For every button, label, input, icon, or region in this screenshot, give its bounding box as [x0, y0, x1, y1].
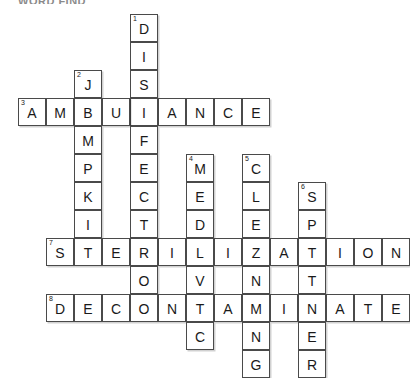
- cell-letter: I: [131, 43, 157, 69]
- crossword-cell[interactable]: 5C: [242, 154, 270, 182]
- cell-letter: A: [327, 295, 353, 321]
- crossword-cell[interactable]: N: [298, 294, 326, 322]
- cell-letter: D: [187, 211, 213, 237]
- crossword-cell[interactable]: T: [130, 210, 158, 238]
- crossword-cell[interactable]: E: [102, 238, 130, 266]
- crossword-cell[interactable]: A: [158, 98, 186, 126]
- cell-letter: A: [159, 99, 185, 125]
- crossword-cell[interactable]: 3A: [18, 98, 46, 126]
- cell-letter: T: [131, 211, 157, 237]
- crossword-cell[interactable]: T: [186, 294, 214, 322]
- cell-letter: E: [299, 323, 325, 349]
- crossword-cell[interactable]: A: [270, 238, 298, 266]
- cell-letter: R: [131, 239, 157, 265]
- crossword-cell[interactable]: E: [242, 210, 270, 238]
- cell-letter: P: [75, 155, 101, 181]
- crossword-cell[interactable]: B: [74, 98, 102, 126]
- cell-letter: N: [383, 239, 409, 265]
- cell-letter: C: [103, 295, 129, 321]
- crossword-cell[interactable]: E: [130, 154, 158, 182]
- crossword-cell[interactable]: I: [158, 238, 186, 266]
- cell-letter: N: [159, 295, 185, 321]
- crossword-cell[interactable]: F: [130, 126, 158, 154]
- cell-letter: F: [131, 127, 157, 153]
- crossword-cell[interactable]: S: [130, 70, 158, 98]
- cell-letter: A: [19, 99, 45, 125]
- crossword-cell[interactable]: E: [186, 182, 214, 210]
- crossword-cell[interactable]: M: [74, 126, 102, 154]
- cell-letter: E: [131, 155, 157, 181]
- crossword-cell[interactable]: R: [130, 238, 158, 266]
- crossword-cell[interactable]: 8D: [46, 294, 74, 322]
- cell-letter: O: [355, 239, 381, 265]
- cell-letter: D: [47, 295, 73, 321]
- crossword-cell[interactable]: M: [46, 98, 74, 126]
- cell-letter: B: [75, 99, 101, 125]
- crossword-cell[interactable]: T: [298, 266, 326, 294]
- cell-letter: J: [75, 71, 101, 97]
- cell-letter: P: [299, 211, 325, 237]
- cell-letter: I: [215, 239, 241, 265]
- crossword-cell[interactable]: O: [130, 294, 158, 322]
- crossword-cell[interactable]: N: [382, 238, 410, 266]
- crossword-cell[interactable]: T: [298, 238, 326, 266]
- crossword-cell[interactable]: U: [102, 98, 130, 126]
- crossword-cell[interactable]: D: [186, 210, 214, 238]
- cell-letter: E: [243, 211, 269, 237]
- crossword-cell[interactable]: C: [186, 322, 214, 350]
- crossword-cell[interactable]: L: [242, 182, 270, 210]
- crossword-cell[interactable]: I: [214, 238, 242, 266]
- crossword-cell[interactable]: 2J: [74, 70, 102, 98]
- crossword-cell[interactable]: E: [74, 294, 102, 322]
- crossword-cell[interactable]: C: [214, 98, 242, 126]
- cell-letter: T: [187, 295, 213, 321]
- crossword-cell[interactable]: A: [326, 294, 354, 322]
- cell-letter: S: [131, 71, 157, 97]
- cell-letter: M: [187, 155, 213, 181]
- cell-letter: S: [299, 183, 325, 209]
- crossword-cell[interactable]: E: [382, 294, 410, 322]
- crossword-cell[interactable]: 4M: [186, 154, 214, 182]
- crossword-cell[interactable]: P: [298, 210, 326, 238]
- crossword-cell[interactable]: C: [102, 294, 130, 322]
- cell-letter: N: [243, 267, 269, 293]
- cell-letter: C: [215, 99, 241, 125]
- cell-letter: T: [75, 239, 101, 265]
- crossword-cell[interactable]: V: [186, 266, 214, 294]
- crossword-cell[interactable]: E: [242, 98, 270, 126]
- cell-letter: C: [187, 323, 213, 349]
- cell-letter: L: [243, 183, 269, 209]
- crossword-cell[interactable]: R: [298, 350, 326, 378]
- crossword-cell[interactable]: O: [130, 266, 158, 294]
- cell-letter: T: [299, 239, 325, 265]
- crossword-cell[interactable]: 7S: [46, 238, 74, 266]
- crossword-cell[interactable]: C: [130, 182, 158, 210]
- crossword-cell[interactable]: G: [242, 350, 270, 378]
- crossword-cell[interactable]: E: [298, 322, 326, 350]
- crossword-cell[interactable]: K: [74, 182, 102, 210]
- crossword-cell[interactable]: M: [242, 294, 270, 322]
- crossword-cell[interactable]: I: [74, 210, 102, 238]
- crossword-cell[interactable]: A: [214, 294, 242, 322]
- crossword-cell[interactable]: P: [74, 154, 102, 182]
- crossword-cell[interactable]: Z: [242, 238, 270, 266]
- crossword-cell[interactable]: I: [130, 98, 158, 126]
- crossword-cell[interactable]: T: [74, 238, 102, 266]
- crossword-cell[interactable]: 6S: [298, 182, 326, 210]
- crossword-cell[interactable]: N: [242, 266, 270, 294]
- crossword-cell[interactable]: T: [354, 294, 382, 322]
- crossword-cell[interactable]: O: [354, 238, 382, 266]
- crossword-cell[interactable]: N: [158, 294, 186, 322]
- cell-letter: E: [243, 99, 269, 125]
- crossword-cell[interactable]: N: [242, 322, 270, 350]
- crossword-cell[interactable]: L: [186, 238, 214, 266]
- crossword-cell[interactable]: 1D: [130, 14, 158, 42]
- crossword-cell[interactable]: I: [326, 238, 354, 266]
- crossword-cell[interactable]: N: [186, 98, 214, 126]
- cell-letter: M: [75, 127, 101, 153]
- cell-letter: U: [103, 99, 129, 125]
- cell-letter: M: [243, 295, 269, 321]
- crossword-cell[interactable]: I: [130, 42, 158, 70]
- crossword-cell[interactable]: I: [270, 294, 298, 322]
